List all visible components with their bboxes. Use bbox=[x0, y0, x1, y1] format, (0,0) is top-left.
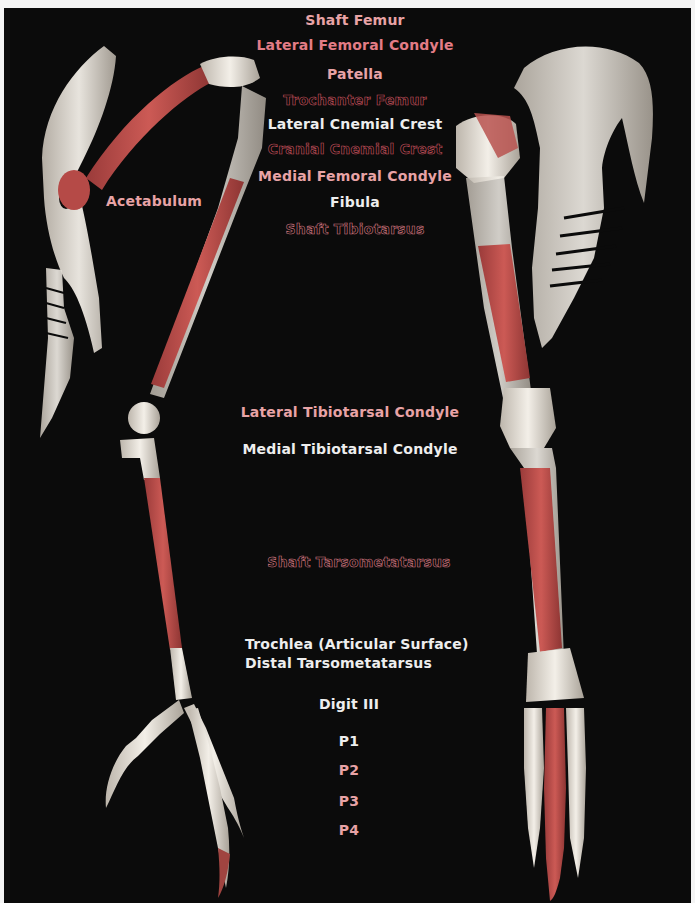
tarsometatarsus-distal-right bbox=[526, 648, 584, 702]
tarsometatarsus-shaft-left bbox=[144, 478, 182, 650]
tibiotarsal-condyles-right bbox=[500, 388, 556, 448]
label-shaft-tarsometatarsus: Shaft Tarsometatarsus bbox=[267, 554, 450, 570]
left-view-skeleton bbox=[40, 46, 266, 898]
label-fibula: Fibula bbox=[330, 194, 380, 210]
label-lateral-tibiotarsal-condyle: Lateral Tibiotarsal Condyle bbox=[241, 404, 460, 420]
toe-digit-ii-right bbox=[524, 708, 544, 868]
label-trochanter-femur: Trochanter Femur bbox=[283, 92, 426, 108]
label-medial-femoral-condyle: Medial Femoral Condyle bbox=[258, 168, 452, 184]
label-p1: P1 bbox=[339, 733, 359, 749]
label-lateral-cnemial-crest: Lateral Cnemial Crest bbox=[268, 116, 443, 132]
label-digit-iii: Digit III bbox=[319, 696, 379, 712]
tarsometatarsus-distal-left bbox=[170, 648, 192, 700]
toe-digit-iv-right bbox=[566, 708, 586, 878]
label-shaft-tibiotarsus: Shaft Tibiotarsus bbox=[285, 221, 424, 237]
tarsometatarsus-proximal-left bbox=[120, 438, 160, 480]
vertebrae-left bbox=[40, 268, 74, 438]
label-shaft-femur: Shaft Femur bbox=[305, 12, 404, 28]
femur-distal-left bbox=[200, 57, 260, 88]
tibiotarsus-shaft-left bbox=[151, 178, 244, 388]
right-view-skeleton bbox=[456, 47, 653, 901]
tibiotarsal-condyle-left bbox=[128, 402, 160, 434]
diagram-panel: Shaft Femur Lateral Femoral Condyle Pate… bbox=[4, 8, 691, 903]
label-trochlea: Trochlea (Articular Surface) bbox=[245, 636, 469, 652]
label-p2: P2 bbox=[339, 762, 359, 778]
label-lateral-femoral-condyle: Lateral Femoral Condyle bbox=[256, 37, 453, 53]
label-patella: Patella bbox=[327, 66, 383, 82]
label-p3: P3 bbox=[339, 793, 359, 809]
label-p4: P4 bbox=[339, 822, 359, 838]
femoral-head-left bbox=[58, 170, 90, 210]
toe-digit-iii-right bbox=[544, 708, 566, 901]
toe-hallux-left bbox=[106, 700, 184, 808]
label-acetabulum: Acetabulum bbox=[106, 193, 202, 209]
pelvis-right bbox=[514, 47, 653, 348]
label-distal-tarsometatarsus: Distal Tarsometatarsus bbox=[245, 655, 432, 671]
label-medial-tibiotarsal-condyle: Medial Tibiotarsal Condyle bbox=[242, 441, 457, 457]
label-cranial-cnemial-crest: Cranial Cnemial Crest bbox=[268, 141, 443, 157]
